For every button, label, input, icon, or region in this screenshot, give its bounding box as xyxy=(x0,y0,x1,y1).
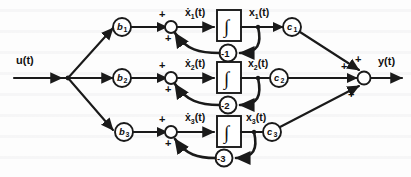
input-gain-b2-label: b xyxy=(117,72,123,83)
input-gain-b1-subscript: 1 xyxy=(124,26,128,33)
xdot1-label: ẋ1(t) xyxy=(185,6,205,20)
input-signal-group xyxy=(14,76,72,81)
xdot2-label: ẋ2(t) xyxy=(185,57,205,71)
output-gain-c1-subscript: 1 xyxy=(294,26,298,33)
input-to-b3-wire xyxy=(68,78,113,130)
sum3-plus-bottom: + xyxy=(165,137,171,149)
input-gain-b3-label: b xyxy=(119,126,125,137)
output-summing-junction[interactable] xyxy=(358,72,371,85)
output-label: y(t) xyxy=(378,55,395,67)
output-plus-top: + xyxy=(341,60,347,72)
input-gain-b1-label: b xyxy=(117,21,123,32)
output-plus-middle: + xyxy=(355,53,361,65)
output-gain-c3-subscript: 3 xyxy=(274,131,278,138)
x1-label: x1(t) xyxy=(249,6,269,20)
x2-feedback-down xyxy=(240,78,259,105)
feedback-gain-3-label: -3 xyxy=(217,153,225,164)
feedback-gain-2-label: -2 xyxy=(221,100,229,111)
output-plus-bottom: + xyxy=(348,88,354,100)
input-label: u(t) xyxy=(16,54,34,66)
input-to-b1-wire xyxy=(68,28,113,78)
c1-to-output-wire xyxy=(300,32,359,70)
sum1-plus-bottom: + xyxy=(165,32,171,44)
branch-3-group: b 3 + + ∫ c 3 -3 ẋ3(t) x3(t) xyxy=(115,86,359,167)
sum2-plus-top: + xyxy=(159,59,165,71)
sum2-plus-bottom: + xyxy=(165,83,171,95)
input-gain-b2-subscript: 2 xyxy=(124,77,128,84)
sum3-plus-top: + xyxy=(159,113,165,125)
branch-1-group: b 1 + + ∫ c 1 -1 ẋ1(t) x1(t) xyxy=(113,6,359,70)
output-gain-c2-label: c xyxy=(274,72,280,83)
output-gain-c1-label: c xyxy=(287,21,293,32)
xdot3-label: ẋ3(t) xyxy=(185,111,205,125)
x3-label: x3(t) xyxy=(246,111,266,125)
feedback-2-to-sum xyxy=(175,84,220,105)
x2-label: x2(t) xyxy=(248,57,268,71)
input-gain-b3-subscript: 3 xyxy=(126,131,130,138)
feedback-1-to-sum xyxy=(175,33,220,53)
sum1-plus-top: + xyxy=(159,8,165,20)
output-gain-c3-label: c xyxy=(267,126,273,137)
feedback-3-to-sum xyxy=(175,139,216,158)
x1-feedback-down xyxy=(240,27,259,53)
diagram-canvas: u(t) b 1 + + ∫ c 1 -1 xyxy=(0,0,411,177)
feedback-gain-1-label: -1 xyxy=(221,48,230,59)
output-gain-c2-subscript: 2 xyxy=(281,77,285,84)
